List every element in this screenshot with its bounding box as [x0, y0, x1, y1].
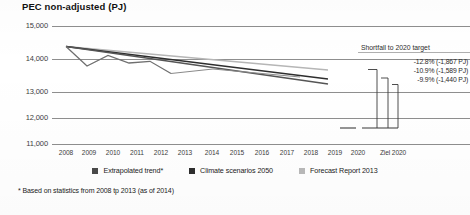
legend-swatch-icon [92, 168, 98, 174]
shortfall-bracket-3 [392, 85, 398, 129]
chart-plot-area [0, 0, 470, 215]
shortfall-bracket-2 [381, 78, 388, 128]
shortfall-bracket-1 [368, 70, 377, 129]
x-tick-label-2015: 2015 [223, 149, 251, 156]
shortfall-annotation-1: -12.8% (-1,867 PJ) [414, 58, 468, 65]
series-line-extrapolated-trend [66, 47, 328, 85]
shortfall-header-label: Shortfall to 2020 target [361, 44, 430, 51]
legend-item-forecast-report-2013[interactable]: Forecast Report 2013 [299, 166, 378, 175]
legend-label: Forecast Report 2013 [310, 166, 378, 175]
chart-container: PEC non-adjusted (PJ) 15,000 14,000 13,0… [0, 0, 470, 215]
legend-swatch-icon [299, 168, 305, 174]
x-tick-label-2020: 2020 [344, 149, 372, 156]
legend-item-extrapolated-trend[interactable]: Extrapolated trend* [92, 166, 163, 175]
legend-label: Climate scenarios 2050 [200, 166, 273, 175]
chart-legend: Extrapolated trend* Climate scenarios 20… [0, 166, 470, 175]
x-tick-label-2013: 2013 [171, 149, 199, 156]
chart-footnote: * Based on statistics from 2008 tp 2013 … [18, 187, 174, 194]
shortfall-annotation-3: -9.9% (-1,440 PJ) [417, 76, 468, 83]
shortfall-annotation-2: -10.9% (-1,589 PJ) [414, 67, 468, 74]
legend-item-climate-scenarios-2050[interactable]: Climate scenarios 2050 [189, 166, 273, 175]
legend-swatch-icon [189, 168, 195, 174]
x-tick-label-ziel-2020: Ziel 2020 [373, 149, 413, 156]
series-line-forecast-report-2013 [66, 47, 328, 71]
x-tick-label-2016: 2016 [248, 149, 276, 156]
x-tick-label-2014: 2014 [198, 149, 226, 156]
legend-label: Extrapolated trend* [103, 166, 163, 175]
